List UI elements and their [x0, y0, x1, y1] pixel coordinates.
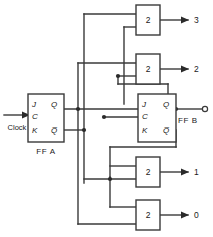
ffb-pin-k: K: [142, 126, 148, 135]
ffb-q-terminal-icon: [202, 106, 207, 111]
output1-arrow-icon: [181, 169, 189, 176]
ffa-pin-qbar: Q̅: [51, 126, 58, 135]
circuit-diagram: J C K Q Q̅ FF A J C K Q Q̅ FF B 2 3 2 2: [0, 0, 213, 237]
output3-arrow-icon: [181, 17, 189, 24]
junction-dot-ffa-qbar: [82, 128, 86, 132]
output-label-1: 1: [194, 167, 199, 177]
junction-dot-gate2-in: [116, 74, 120, 78]
gate-2-label: 2: [146, 64, 151, 74]
output-label-3: 3: [194, 15, 199, 25]
ffa-pin-c: C: [32, 112, 38, 121]
output-label-0: 0: [194, 210, 199, 220]
flipflop-ffb[interactable]: J C K Q Q̅ FF B: [138, 94, 198, 142]
flipflop-ffa[interactable]: J C K Q Q̅ FF A: [28, 94, 64, 156]
output-label-2: 2: [194, 64, 199, 74]
junction-dot-gate1-in: [108, 177, 112, 181]
output2-arrow-icon: [181, 66, 189, 73]
ffa-pin-k: K: [32, 126, 38, 135]
schematic-canvas: J C K Q Q̅ FF A J C K Q Q̅ FF B 2 3 2 2: [0, 0, 213, 237]
junction-dot-ffa-q: [76, 107, 80, 111]
ffa-label: FF A: [36, 147, 55, 156]
ffb-pin-c: C: [142, 112, 148, 121]
ffa-pin-q: Q: [51, 100, 57, 109]
ffb-pin-qbar: Q̅: [163, 126, 170, 135]
output0-arrow-icon: [181, 212, 189, 219]
junction-dot-ffb-clock: [102, 115, 106, 119]
gate-1-label: 2: [146, 167, 151, 177]
gate-3-label: 2: [146, 15, 151, 25]
ffb-label: FF B: [178, 116, 198, 125]
gate-0-label: 2: [146, 210, 151, 220]
clock-label: Clock: [8, 123, 27, 132]
ffb-pin-q: Q: [163, 100, 169, 109]
